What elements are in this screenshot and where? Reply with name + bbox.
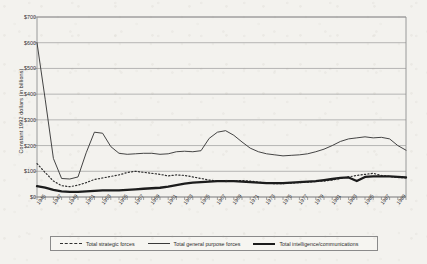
x-tick-label: 1953 [100, 193, 112, 206]
chart-legend: Total strategic forcesTotal general purp… [50, 236, 378, 251]
x-tick-label: 1973 [264, 193, 276, 206]
x-tick-label: 1947 [51, 193, 63, 206]
legend-item[interactable]: Total strategic forces [60, 241, 135, 247]
x-tick-label: 1965 [199, 193, 211, 206]
legend-label: Total intelligence/communications [279, 241, 358, 247]
x-tick-label: 1959 [149, 193, 161, 206]
x-tick-label: 1977 [297, 193, 309, 206]
x-tick-label: 1945 [35, 193, 47, 206]
x-tick-label: 1951 [84, 193, 96, 206]
x-tick-label: 1963 [182, 193, 194, 206]
dashed-line-swatch [60, 241, 82, 246]
legend-item[interactable]: Total general purpose forces [148, 241, 241, 247]
x-tick-label: 1957 [133, 193, 145, 206]
thin-line-swatch [148, 241, 170, 246]
x-tick-label: 1961 [166, 193, 178, 206]
line-chart: Constant 1992 dollars (in billions) $0$1… [0, 0, 427, 264]
x-tick-label: 1985 [363, 193, 375, 206]
thick-line-swatch [253, 241, 275, 246]
x-tick-label: 1981 [330, 193, 342, 206]
legend-label: Total general purpose forces [174, 241, 241, 247]
x-tick-label: 1955 [117, 193, 129, 206]
x-tick-label: 1989 [395, 193, 407, 206]
x-tick-label: 1979 [313, 193, 325, 206]
x-tick-label: 1983 [346, 193, 358, 206]
legend-label: Total strategic forces [86, 241, 135, 247]
x-tick-label: 1975 [281, 193, 293, 206]
legend-item[interactable]: Total intelligence/communications [253, 241, 358, 247]
x-tick-label: 1971 [248, 193, 260, 206]
x-tick-label: 1967 [215, 193, 227, 206]
x-tick-label: 1969 [231, 193, 243, 206]
x-axis-tick-labels: 1945194719491951195319551957195919611963… [0, 0, 427, 264]
x-tick-label: 1987 [379, 193, 391, 206]
x-tick-label: 1949 [67, 193, 79, 206]
